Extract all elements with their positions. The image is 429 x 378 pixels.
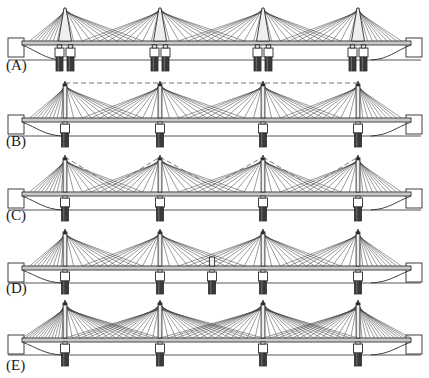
pier-column <box>350 45 354 48</box>
pier-column <box>158 122 162 124</box>
pylon-head <box>261 300 265 305</box>
pylon-mast <box>356 158 360 192</box>
stay-cable <box>179 12 263 41</box>
pier-shaft <box>62 207 69 221</box>
pier-column <box>261 342 265 344</box>
cable-fan <box>280 232 401 266</box>
pier-column <box>63 342 67 344</box>
pylon-head <box>356 155 360 160</box>
pylon-head <box>63 300 67 305</box>
cable-fan <box>65 303 263 338</box>
pier-cap <box>354 272 363 281</box>
pier-cap <box>156 272 165 281</box>
pier-column <box>210 270 214 272</box>
pier-shaft <box>62 281 69 294</box>
pier-shaft <box>355 353 362 366</box>
pier-shaft <box>260 133 267 147</box>
cable-fan <box>179 158 341 192</box>
cable-fan <box>280 8 401 41</box>
cable-fan <box>280 158 401 192</box>
approach-soffit-right <box>371 122 411 136</box>
stay-cable <box>66 236 143 266</box>
pylon-mast <box>158 158 162 192</box>
pier-cap <box>359 48 368 57</box>
pylon-head <box>158 81 162 86</box>
pylon-mast <box>356 303 360 338</box>
pier-cap <box>259 198 268 207</box>
pier-cap <box>208 272 217 281</box>
stay-cable <box>82 162 159 192</box>
pylon-mast <box>261 158 265 192</box>
stay-cable <box>82 12 159 41</box>
pier-cap <box>61 344 70 353</box>
pier-cap <box>354 198 363 207</box>
pylon-mast <box>63 158 67 192</box>
pier-cap <box>61 124 70 133</box>
pier-cap <box>150 48 159 57</box>
stay-cable <box>161 162 245 192</box>
pier-column <box>63 122 67 124</box>
stay-cable <box>359 162 402 192</box>
approach-soffit-left <box>22 122 62 136</box>
pier-shaft <box>254 57 261 71</box>
pier-shaft <box>260 353 267 366</box>
pier-column <box>261 270 265 272</box>
cable-fan <box>82 84 244 118</box>
stay-cable <box>161 88 245 118</box>
bridge-configuration-figure: (A)(B)(C)(D)(E) <box>0 0 429 378</box>
pier-column <box>356 342 360 344</box>
pier-shaft <box>355 207 362 221</box>
panel-B <box>8 81 422 147</box>
pier-cap <box>61 198 70 207</box>
stay-cable <box>161 236 245 266</box>
stay-cable <box>359 88 402 118</box>
stay-cable <box>359 12 402 41</box>
pylon-head <box>356 229 360 234</box>
cable-fan <box>280 84 401 118</box>
pylon-mast <box>356 84 360 118</box>
stay-cable <box>280 162 357 192</box>
pylon-head <box>356 300 360 305</box>
stay-cable <box>264 12 341 41</box>
approach-soffit-left <box>22 270 62 283</box>
pier-cap <box>259 272 268 281</box>
pylon-mast <box>356 232 360 266</box>
pylon-mast <box>63 84 67 118</box>
stay-cable <box>161 12 245 41</box>
pier-shaft <box>67 57 74 71</box>
pier-shaft <box>265 57 272 71</box>
pylon-mast <box>63 303 67 338</box>
stay-cable <box>66 12 143 41</box>
pier-cap <box>348 48 357 57</box>
stay-cable <box>280 88 357 118</box>
pier-shaft <box>360 57 367 71</box>
pylon-head <box>261 81 265 86</box>
pier-shaft <box>157 281 164 294</box>
panel-label-A: (A) <box>6 57 27 74</box>
pylon-head <box>356 81 360 86</box>
pier-shaft <box>355 281 362 294</box>
pier-shaft <box>157 207 164 221</box>
stay-cable <box>22 310 64 338</box>
panel-label-E: (E) <box>6 357 25 374</box>
pier-column <box>261 196 265 198</box>
pier-column <box>356 196 360 198</box>
pier-cap <box>156 344 165 353</box>
cable-fan <box>179 232 341 266</box>
panel-E <box>8 300 422 366</box>
panel-A <box>8 8 422 71</box>
stay-cable <box>82 236 159 266</box>
pier-cap <box>354 344 363 353</box>
stay-cable <box>280 12 357 41</box>
pier-column <box>63 270 67 272</box>
pier-column <box>361 45 365 48</box>
approach-soffit-right <box>371 196 411 210</box>
pier-shaft <box>260 281 267 294</box>
pier-column <box>68 45 72 48</box>
pylon-mast <box>261 84 265 118</box>
pier-column <box>261 122 265 124</box>
pylon-head <box>158 300 162 305</box>
stay-cable <box>264 236 341 266</box>
stay-cable <box>30 88 65 118</box>
pier-column <box>255 45 259 48</box>
